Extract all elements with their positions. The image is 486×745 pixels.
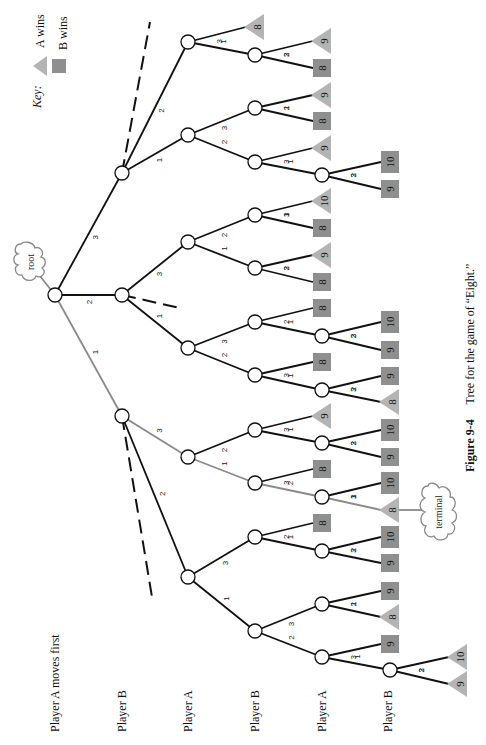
decision-node (181, 235, 195, 249)
edge-labels: 3212131321322132213111112132133221332313… (85, 39, 427, 673)
edge-move-label: 3 (282, 159, 291, 164)
a-wins-triangle-icon (33, 56, 47, 76)
leaf-value: 9 (318, 92, 330, 98)
legend-title: Key: (30, 85, 44, 109)
leaf-b-wins: 9 (381, 448, 399, 466)
tree-edge (322, 644, 381, 657)
leaf-b-wins: 8 (313, 299, 331, 317)
edge-move-label: 1 (220, 246, 229, 251)
pruned-branch-dashed-line (122, 22, 150, 173)
player-level-label: Player B (115, 690, 129, 732)
leaf-b-wins: 9 (381, 582, 399, 600)
edge-move-label: 2 (349, 333, 358, 338)
decision-node (181, 570, 195, 584)
tree-diagram: 898989109108988109898910981088109989109 … (0, 0, 486, 745)
edge-move-label: 3 (155, 428, 164, 433)
decision-node (115, 166, 129, 180)
leaf-value: 9 (384, 641, 396, 647)
tree-edge (188, 537, 255, 577)
leaf-b-wins: 8 (313, 219, 331, 237)
edge-move-label: 3 (287, 621, 296, 626)
decision-node (248, 101, 262, 115)
leaf-value: 9 (384, 373, 396, 379)
edge-move-label: 2 (282, 319, 291, 324)
player-level-label: Player A (181, 690, 195, 732)
root-callout-label: root (25, 254, 36, 270)
leaf-value: 10 (384, 316, 396, 328)
leaf-value: 8 (316, 118, 328, 124)
leaf-a-wins: 9 (311, 28, 331, 54)
leaf-b-wins: 10 (381, 419, 399, 441)
decision-node (248, 530, 262, 544)
edge-move-label: 1 (155, 157, 164, 162)
player-level-labels: Player A moves firstPlayer BPlayer APlay… (48, 634, 395, 732)
tree-edge (122, 416, 188, 577)
decision-node (248, 155, 262, 169)
decision-node (315, 436, 329, 450)
edge-move-label: 2 (282, 265, 291, 270)
leaf-value: 9 (384, 347, 396, 353)
root-callout-connector (40, 276, 51, 290)
leaf-b-wins: 9 (381, 635, 399, 653)
edge-move-label: 2 (220, 232, 229, 237)
leaf-a-wins: 9 (311, 135, 331, 161)
tree-edge (188, 348, 255, 375)
edge-move-label: 2 (349, 440, 358, 445)
decision-node (248, 315, 262, 329)
leaf-b-wins: 8 (313, 112, 331, 130)
leaf-b-wins: 10 (381, 311, 399, 333)
tree-edge (188, 457, 255, 483)
pruned-branch-dashed-line (122, 416, 152, 597)
tree-edge (188, 135, 255, 162)
decision-node (315, 329, 329, 343)
tree-edge (55, 295, 122, 416)
edge-move-label: 1 (91, 349, 100, 354)
decision-node (115, 288, 129, 302)
leaf-a-wins: 8 (379, 497, 399, 523)
edge-move-label: 3 (282, 480, 291, 485)
terminal-callout: terminal (420, 483, 456, 540)
leaf-value: 8 (316, 359, 328, 365)
tree-edge (255, 362, 313, 375)
decision-node (181, 128, 195, 142)
leaf-value: 9 (318, 252, 330, 258)
leaf-value: 8 (386, 399, 398, 405)
edge-move-label: 1 (349, 494, 358, 499)
root-callout: root (14, 242, 45, 280)
edge-move-label: 2 (282, 534, 291, 539)
edge-move-label: 3 (349, 655, 358, 660)
edge-move-label: 2 (417, 667, 426, 672)
leaf-a-wins: 9 (311, 403, 331, 429)
decision-node (315, 168, 329, 182)
decision-node (181, 35, 195, 49)
decision-node (115, 409, 129, 423)
edge-move-label: 3 (220, 339, 229, 344)
tree-edge (188, 577, 255, 631)
pruned-branch-markers (122, 22, 180, 597)
edge-move-label: 2 (287, 635, 296, 640)
leaf-b-wins: 8 (313, 273, 331, 291)
leaf-value: 10 (318, 195, 330, 207)
leaf-b-wins: 10 (381, 472, 399, 494)
tree-edge (255, 631, 322, 657)
decision-node (248, 368, 262, 382)
player-level-label: Player A moves first (48, 634, 62, 732)
edge-move-label: 1 (155, 313, 164, 318)
leaf-value: 8 (316, 305, 328, 311)
leaf-a-wins: 8 (379, 604, 399, 630)
edge-move-label: 2 (220, 447, 229, 452)
b-wins-square-icon (52, 59, 66, 73)
leaf-b-wins: 10 (381, 151, 399, 173)
leaf-value: 8 (316, 520, 328, 526)
tree-edge (122, 416, 188, 457)
edge-move-label: 3 (155, 271, 164, 276)
player-level-label: Player B (248, 690, 262, 732)
player-level-label: Player B (381, 690, 395, 732)
leaf-b-wins: 8 (313, 353, 331, 371)
leaf-a-wins: 9 (311, 82, 331, 108)
decision-node (315, 650, 329, 664)
leaf-value: 8 (316, 225, 328, 231)
leaf-b-wins: 8 (313, 460, 331, 478)
edge-move-label: 2 (349, 386, 358, 391)
edge-move-label: 3 (91, 235, 100, 240)
